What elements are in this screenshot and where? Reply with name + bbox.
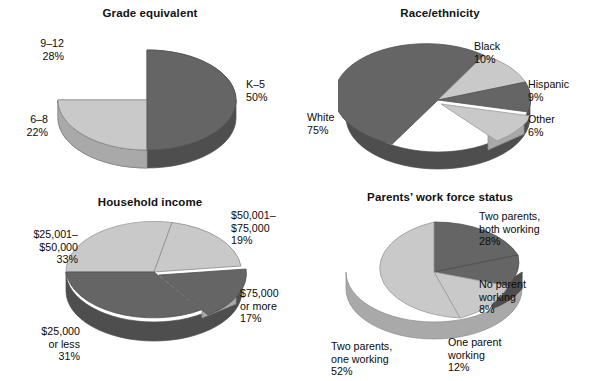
label-75000-or-more: $75,000 or more 17% [240,287,279,325]
label-white-line2: 75% [307,124,334,137]
label-k-5: K–5 50% [246,78,267,103]
label-6-8-line2: 22% [0,126,48,139]
label-6-8-line1: 6–8 [0,113,48,126]
label-50001-75000-line2: $75,000 [231,222,276,235]
label-hispanic-line1: Hispanic [528,78,569,91]
label-black-line1: Black [474,40,500,53]
label-k-5-line2: 50% [246,91,267,104]
label-two-both-working-line1: Two parents, [479,210,540,223]
label-75000-or-more-line3: 17% [240,312,279,325]
label-no-parent-working-line2: working [479,291,526,304]
label-25000-or-less: $25,000 or less 31% [0,325,80,363]
label-25001-50000-line3: 33% [0,253,78,266]
pie-household-income [60,214,250,354]
label-two-one-working-line3: 52% [331,365,392,378]
label-k-5-line1: K–5 [246,78,267,91]
label-one-parent-working: One parent working 12% [448,336,501,374]
label-two-both-working-line3: 28% [479,235,540,248]
label-two-both-working: Two parents, both working 28% [479,210,540,248]
chart-title-household-income: Household income [45,196,255,208]
label-one-parent-working-line3: 12% [448,361,501,374]
label-25000-or-less-line2: or less [0,338,80,351]
pie-svg-household-income [60,214,250,354]
label-9-12: 9–12 28% [0,37,64,62]
label-50001-75000: $50,001– $75,000 19% [231,209,276,247]
label-two-one-working: Two parents, one working 52% [331,340,392,378]
label-9-12-line2: 28% [0,50,64,63]
label-25000-or-less-line3: 31% [0,350,80,363]
label-one-parent-working-line1: One parent [448,336,501,349]
label-other-line2: 6% [528,126,555,139]
pie-svg-race-ethnicity [338,38,538,170]
chart-title-grade-equivalent: Grade equivalent [45,7,255,19]
pie-svg-grade-equivalent [52,32,242,172]
chart-title-parents-work-force-status: Parents’ work force status [335,191,545,203]
label-75000-or-more-line2: or more [240,300,279,313]
label-two-both-working-line2: both working [479,223,540,236]
label-50001-75000-line3: 19% [231,234,276,247]
label-white: White 75% [307,111,334,136]
label-hispanic-line2: 9% [528,91,569,104]
label-no-parent-working: No parent working 8% [479,278,526,316]
pie-grade-equivalent [52,32,242,172]
label-25001-50000-line2: $50,000 [0,241,78,254]
label-other-line1: Other [528,113,555,126]
label-other: Other 6% [528,113,555,138]
label-two-one-working-line1: Two parents, [331,340,392,353]
label-hispanic: Hispanic 9% [528,78,569,103]
label-two-one-working-line2: one working [331,353,392,366]
label-black-line2: 10% [474,53,500,66]
label-9-12-line1: 9–12 [0,37,64,50]
label-no-parent-working-line1: No parent [479,278,526,291]
pie-race-ethnicity [338,38,538,170]
label-25001-50000: $25,001– $50,000 33% [0,228,78,266]
label-white-line1: White [307,111,334,124]
label-50001-75000-line1: $50,001– [231,209,276,222]
label-black: Black 10% [474,40,500,65]
chart-title-race-ethnicity: Race/ethnicity [335,7,545,19]
label-75000-or-more-line1: $75,000 [240,287,279,300]
pie-slice-25001-50000 [66,221,172,272]
label-no-parent-working-line3: 8% [479,303,526,316]
label-one-parent-working-line2: working [448,349,501,362]
label-25001-50000-line1: $25,001– [0,228,78,241]
label-6-8: 6–8 22% [0,113,48,138]
label-25000-or-less-line1: $25,000 [0,325,80,338]
